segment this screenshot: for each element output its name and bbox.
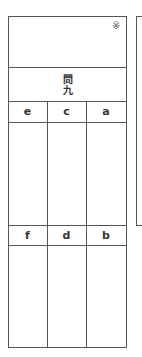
question-title-2: 九 xyxy=(8,86,127,96)
divider xyxy=(8,225,127,226)
header-c: c xyxy=(47,106,86,117)
header-a: a xyxy=(86,106,126,117)
answer-sheet-frame xyxy=(8,16,127,348)
header-d: d xyxy=(47,230,86,241)
divider xyxy=(8,122,127,123)
note-mark: ※ xyxy=(112,20,120,31)
header-f: f xyxy=(8,230,47,241)
divider xyxy=(8,67,127,68)
question-title-1: 問 xyxy=(8,75,127,85)
divider xyxy=(8,101,127,102)
header-e: e xyxy=(8,106,47,117)
header-b: b xyxy=(86,230,126,241)
adjacent-frame xyxy=(136,16,142,226)
divider xyxy=(8,245,127,246)
